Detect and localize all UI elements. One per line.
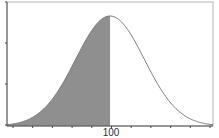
normal-distribution-chart: 100 [0, 0, 219, 138]
x-tick-label-100: 100 [103, 127, 120, 138]
